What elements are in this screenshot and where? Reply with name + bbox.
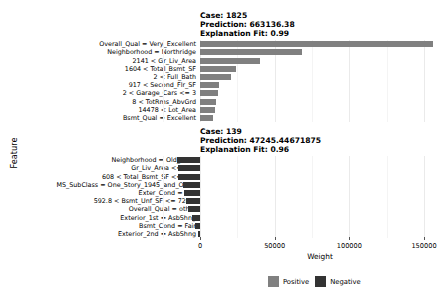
bar [198,231,200,237]
y-tick-label: Exterior_2nd = AsbShng [118,231,196,237]
panel-case-label: Case: 139 [200,128,242,136]
panel-y-tick-labels: Overall_Qual = Very_ExcellentNeighborhoo… [0,40,196,122]
y-tick-label: 14478 < Lot_Area [138,107,196,113]
x-tick-mark [349,237,350,240]
x-tick-mark [200,237,201,240]
y-tick-label: 2 < Full_Bath [154,74,196,80]
y-tick-label: 2141 < Gr_Liv_Area [133,58,196,64]
y-tick-label: 1604 < Total_Bsmt_SF [125,66,196,72]
bar [200,115,213,121]
bar-row [200,214,440,221]
panel-y-tick-labels: Neighborhood = Old_TownGr_Liv_Area <= 93… [0,156,196,238]
legend: PositiveNegative [268,276,361,287]
bar-row [200,206,440,213]
panel-case-label: Case: 1825 [200,12,247,20]
bar-row [200,73,440,80]
bar [192,215,200,221]
bar-row [200,82,440,89]
legend-label: Negative [330,278,361,286]
bar [200,107,215,113]
panel-plot-area [200,156,440,238]
bar [200,90,218,96]
legend-item: Positive [268,276,309,287]
panel-prediction-label: Prediction: 47245.44671875 [200,137,321,145]
legend-swatch [268,276,279,287]
bar-row [200,181,440,188]
bar [200,99,216,105]
bar-row [200,222,440,229]
bar-row [200,65,440,72]
bar [200,58,260,64]
bar [184,190,200,196]
x-tick-label: 50000 [264,242,285,250]
y-tick-label: MS_SubClass = One_Story_1945_and_Older [56,182,196,188]
bar [188,206,200,212]
y-tick-label: Bsmt_Qual = Excellent [123,115,196,121]
x-tick-mark [275,237,276,240]
bar-row [200,198,440,205]
bar-row [200,114,440,121]
bar [200,41,433,47]
y-tick-label: 592.8 < Bsmt_Unf_SF <= 728.0 [94,198,196,204]
legend-swatch [315,276,326,287]
bar-row [200,57,440,64]
bar-row [200,106,440,113]
legend-item: Negative [315,276,361,287]
x-tick-label: 100000 [337,242,362,250]
bar [178,165,200,171]
x-tick-mark [424,237,425,240]
legend-label: Positive [283,278,309,286]
bar [195,223,200,229]
y-tick-label: Neighborhood = Northridge [107,49,196,55]
explanation-panel-case-139: Case: 139 Prediction: 47245.44671875 Exp… [0,128,447,240]
bar-row [200,41,440,48]
x-tick-label: 0 [198,242,202,250]
y-tick-label: Bsmt_Cond = Fair [139,223,196,229]
panel-explanation-fit-label: Explanation Fit: 0.99 [200,30,289,38]
bar [178,174,200,180]
explanation-panel-case-1825: Case: 1825 Prediction: 663136.38 Explana… [0,12,447,124]
bar-row [200,98,440,105]
bar [186,198,200,204]
bar [177,157,200,163]
explanation-chart-figure: Feature Case: 1825 Prediction: 663136.38… [0,0,447,308]
x-axis-label: Weight [307,252,333,261]
bar-row [200,49,440,56]
bar [200,74,231,80]
y-tick-label: 8 < TotRms_AbvGrd [132,99,196,105]
bar-row [200,165,440,172]
x-axis: Weight 050000100000150000 [0,240,447,270]
panel-explanation-fit-label: Explanation Fit: 0.96 [200,146,289,154]
bar-row [200,230,440,237]
y-tick-label: Exterior_1st = AsbShng [120,215,196,221]
bar [200,82,219,88]
bar-row [200,90,440,97]
x-tick-label: 150000 [411,242,436,250]
panel-prediction-label: Prediction: 663136.38 [200,21,295,29]
bar-row [200,157,440,164]
bar [200,49,302,55]
bar [200,66,236,72]
panel-plot-area [200,40,440,122]
bar-row [200,173,440,180]
y-tick-label: Overall_Qual = Very_Excellent [99,41,196,47]
gridline-minor [163,40,164,122]
bar [183,182,200,188]
gridline-minor [163,156,164,238]
bar-row [200,189,440,196]
y-tick-label: 2 < Garage_Cars <= 3 [123,90,196,96]
